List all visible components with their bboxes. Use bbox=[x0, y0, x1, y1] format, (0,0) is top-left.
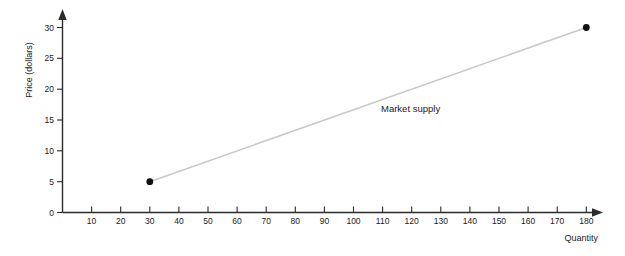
x-tick-label: 60 bbox=[232, 216, 242, 226]
x-tick-label: 20 bbox=[116, 216, 126, 226]
x-tick-label: 120 bbox=[405, 216, 419, 226]
x-axis-ticks bbox=[92, 207, 587, 213]
x-tick-label: 160 bbox=[521, 216, 535, 226]
data-point-marker bbox=[583, 24, 590, 31]
y-axis-arrow-icon bbox=[58, 9, 66, 20]
x-tick-label: 110 bbox=[376, 216, 390, 226]
market-supply-chart: 0 5 10 15 20 25 30 bbox=[0, 0, 625, 256]
y-tick-label: 30 bbox=[45, 23, 55, 33]
y-axis-title: Price (dollars) bbox=[24, 42, 34, 98]
series-annotation-market-supply: Market supply bbox=[381, 103, 440, 114]
x-axis-tick-labels: 10 20 30 40 50 60 70 80 90 100 110 120 1… bbox=[87, 216, 594, 226]
x-tick-label: 150 bbox=[492, 216, 506, 226]
x-axis-arrow-icon bbox=[592, 208, 603, 216]
x-tick-label: 140 bbox=[463, 216, 477, 226]
x-axis-title: Quantity bbox=[564, 233, 598, 243]
y-tick-label: 25 bbox=[45, 53, 55, 63]
y-tick-label: 5 bbox=[49, 177, 54, 187]
data-point-marker bbox=[146, 178, 153, 185]
x-tick-label: 180 bbox=[579, 216, 593, 226]
y-tick-label: 10 bbox=[45, 146, 55, 156]
y-axis-ticks bbox=[57, 28, 63, 213]
x-tick-label: 100 bbox=[346, 216, 360, 226]
market-supply-line bbox=[150, 28, 587, 182]
chart-canvas: 0 5 10 15 20 25 30 bbox=[0, 0, 625, 256]
x-tick-label: 170 bbox=[550, 216, 564, 226]
x-tick-label: 70 bbox=[261, 216, 271, 226]
x-tick-label: 130 bbox=[434, 216, 448, 226]
x-tick-label: 50 bbox=[203, 216, 213, 226]
y-tick-label: 0 bbox=[49, 208, 54, 218]
x-tick-label: 90 bbox=[320, 216, 330, 226]
y-tick-label: 20 bbox=[45, 84, 55, 94]
x-tick-label: 80 bbox=[291, 216, 301, 226]
y-tick-label: 15 bbox=[45, 115, 55, 125]
x-tick-label: 40 bbox=[174, 216, 184, 226]
x-tick-label: 10 bbox=[87, 216, 97, 226]
y-axis-tick-labels: 0 5 10 15 20 25 30 bbox=[45, 23, 55, 218]
x-tick-label: 30 bbox=[145, 216, 155, 226]
